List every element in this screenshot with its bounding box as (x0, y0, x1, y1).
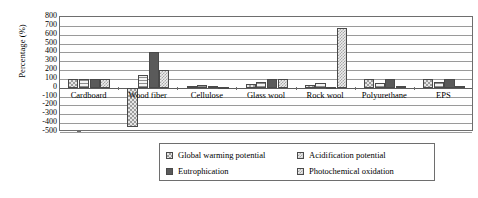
bars-layer (60, 17, 472, 130)
y-axis-tick-labels: 8007006005004003002001000-100-200-300-40… (22, 16, 57, 131)
plot-area (59, 16, 473, 131)
legend-label-acidification-potential: Acidification potential (309, 151, 386, 160)
legend-swatch-icon-acidification-potential (297, 152, 304, 159)
bar-glass-wool-global-warming-potential (246, 84, 256, 88)
chart-figure: Percentage (%) 8007006005004003002001000… (0, 0, 478, 198)
legend-swatch-icon-photochemical-oxidation (297, 168, 304, 175)
y-tick-label--500: -500 (22, 127, 57, 135)
y-tick-label-500: 500 (22, 39, 57, 47)
bar-eps-eutrophication (444, 79, 454, 88)
bar-glass-wool-eutrophication (267, 79, 277, 88)
bar-rock-wool-photochemical-oxidation (337, 28, 347, 88)
bar-eps-acidification-potential (434, 82, 444, 88)
legend-label-global-warming-potential: Global warming potential (178, 151, 265, 160)
bar-group-cellulose (178, 17, 237, 130)
bar-wood-fiber-photochemical-oxidation (159, 70, 169, 88)
bar-polyurethane-eutrophication (385, 79, 395, 88)
bar-cellulose-acidification-potential (197, 85, 207, 88)
bar-polyurethane-acidification-potential (375, 83, 385, 88)
y-tick-label--400: -400 (22, 118, 57, 126)
y-tick-label-400: 400 (22, 47, 57, 55)
y-tick-label-300: 300 (22, 56, 57, 64)
bar-glass-wool-acidification-potential (256, 82, 266, 87)
y-tick-label-700: 700 (22, 21, 57, 29)
legend-row-1: Global warming potential Acidification p… (166, 147, 428, 163)
bar-wood-fiber-acidification-potential (138, 75, 148, 88)
bar-cellulose-global-warming-potential (187, 86, 197, 88)
bar-group-cardboard (60, 17, 119, 130)
bar-cardboard-eutrophication (90, 79, 100, 88)
bar-group-polyurethane (356, 17, 415, 130)
bar-cardboard-acidification-potential (79, 79, 89, 88)
bar-eps-global-warming-potential (423, 79, 433, 88)
legend-item-eutrophication[interactable]: Eutrophication (166, 163, 297, 179)
y-tick-label-600: 600 (22, 30, 57, 38)
legend-row-2: Eutrophication Photochemical oxidation (166, 163, 428, 179)
bar-wood-fiber-global-warming-potential (127, 88, 137, 127)
bar-glass-wool-photochemical-oxidation (278, 79, 288, 87)
bar-group-rock-wool (297, 17, 356, 130)
legend-swatch-icon-eutrophication (166, 168, 173, 175)
y-tick-label-100: 100 (22, 74, 57, 82)
bar-cardboard-global-warming-potential (68, 79, 78, 88)
legend-item-acidification-potential[interactable]: Acidification potential (297, 147, 428, 163)
bar-wood-fiber-eutrophication (149, 52, 159, 87)
bar-eps-photochemical-oxidation (455, 86, 465, 88)
legend-swatch-icon-global-warming-potential (166, 152, 173, 159)
legend-label-eutrophication: Eutrophication (178, 167, 229, 176)
bar-cellulose-eutrophication (208, 86, 218, 88)
gridline--500 (60, 132, 472, 133)
y-tick-label--100: -100 (22, 92, 57, 100)
y-tick-label--300: -300 (22, 109, 57, 117)
chart-legend: Global warming potential Acidification p… (159, 143, 435, 181)
bar-polyurethane-global-warming-potential (364, 79, 374, 88)
y-tick-label-200: 200 (22, 65, 57, 73)
bar-rock-wool-global-warming-potential (305, 85, 315, 88)
legend-item-photochemical-oxidation[interactable]: Photochemical oxidation (297, 163, 428, 179)
bar-group-wood-fiber (119, 17, 178, 130)
bar-cellulose-photochemical-oxidation (218, 87, 228, 89)
bar-group-glass-wool (237, 17, 296, 130)
y-tick-label-800: 800 (22, 12, 57, 20)
y-tick-label-0: 0 (22, 83, 57, 91)
bar-rock-wool-acidification-potential (315, 83, 325, 87)
bar-polyurethane-photochemical-oxidation (396, 86, 406, 88)
legend-item-global-warming-potential[interactable]: Global warming potential (166, 147, 297, 163)
bar-cardboard-photochemical-oxidation (100, 79, 110, 88)
y-tick-label--200: -200 (22, 100, 57, 108)
bar-group-eps (415, 17, 474, 130)
bar-rock-wool-eutrophication (326, 87, 336, 89)
legend-label-photochemical-oxidation: Photochemical oxidation (309, 167, 394, 176)
